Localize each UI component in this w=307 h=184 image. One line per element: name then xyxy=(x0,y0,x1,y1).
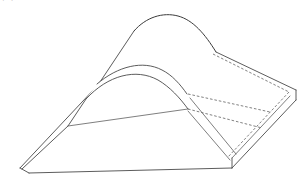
figure-page: 图3-17 连续曲面件在凸模的设计和凹模上的夹紧设计 xyxy=(0,0,307,184)
line-drawing-svg xyxy=(0,8,307,184)
figure-caption-text: 图3-17 连续曲面件在凸模的设计和凹模上的夹紧设计 xyxy=(2,0,307,2)
top-face-fill xyxy=(20,15,296,173)
face-fills xyxy=(20,15,296,173)
technical-drawing-figure xyxy=(0,8,307,184)
